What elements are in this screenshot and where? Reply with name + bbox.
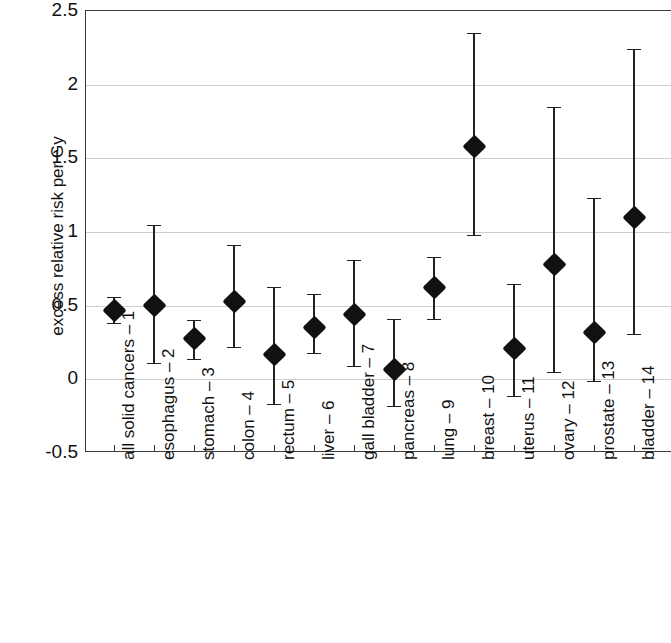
- diamond-marker-icon: [542, 252, 566, 276]
- error-bar-cap-lower: [427, 319, 441, 320]
- error-bar-cap-upper: [547, 107, 561, 108]
- y-tick-label: 0: [13, 367, 85, 389]
- diamond-marker-icon: [502, 336, 526, 360]
- diamond-marker-icon: [222, 289, 246, 313]
- x-tick-label-text: liver – 6: [319, 400, 339, 460]
- error-bar-cap-lower: [187, 359, 201, 360]
- y-tick-label: 2: [13, 73, 85, 95]
- error-bar-cap-upper: [267, 287, 281, 288]
- error-bar-cap-upper: [347, 260, 361, 261]
- error-bar-cap-upper: [227, 245, 241, 246]
- x-tick-label-text: gall bladder – 7: [359, 344, 379, 460]
- error-bar-cap-upper: [467, 33, 481, 34]
- x-axis-tick: [234, 445, 235, 452]
- x-axis-tick: [354, 445, 355, 452]
- error-bar-cap-upper: [307, 294, 321, 295]
- diamond-marker-icon: [622, 205, 646, 229]
- x-axis-tick: [554, 445, 555, 452]
- x-axis-tick: [314, 445, 315, 452]
- gridline: [86, 85, 671, 86]
- diamond-marker-icon: [462, 135, 486, 159]
- error-bar-cap-upper: [107, 297, 121, 298]
- x-axis-tick: [194, 445, 195, 452]
- diamond-marker-icon: [302, 316, 326, 340]
- x-axis-tick: [274, 445, 275, 452]
- x-tick-label-text: prostate – 13: [599, 361, 619, 460]
- error-bar-line: [553, 107, 555, 372]
- x-tick-label-text: bladder – 14: [639, 365, 659, 460]
- x-tick-label-text: breast – 10: [479, 375, 499, 460]
- error-bar-cap-lower: [227, 347, 241, 348]
- x-tick-label-text: all solid cancers – 1: [119, 311, 139, 460]
- gridline: [86, 158, 671, 159]
- gridline: [86, 306, 671, 307]
- error-bar-cap-lower: [307, 353, 321, 354]
- y-tick-label: 0.5: [13, 294, 85, 316]
- error-bar-cap-lower: [547, 372, 561, 373]
- error-bar-cap-upper: [427, 257, 441, 258]
- x-axis-tick: [114, 445, 115, 452]
- x-tick-label-text: pancreas – 8: [399, 362, 419, 460]
- x-axis-tick: [434, 445, 435, 452]
- x-tick-label-text: stomach – 3: [199, 367, 219, 460]
- y-tick-label: 1.5: [13, 146, 85, 168]
- x-tick-label-text: uterus – 11: [519, 376, 539, 460]
- error-bar-line: [593, 198, 595, 381]
- error-bar-cap-upper: [587, 198, 601, 199]
- y-tick-label: -0.5: [13, 441, 85, 463]
- x-axis-tick: [394, 445, 395, 452]
- x-axis-tick: [514, 445, 515, 452]
- x-tick-label-text: esophagus – 2: [159, 348, 179, 460]
- x-axis-tick: [594, 445, 595, 452]
- diamond-marker-icon: [422, 276, 446, 300]
- diamond-marker-icon: [262, 342, 286, 366]
- error-bar-cap-lower: [627, 334, 641, 335]
- x-tick-label-text: ovary – 12: [559, 381, 579, 460]
- y-tick-label: 2.5: [13, 0, 85, 21]
- x-axis-tick: [634, 445, 635, 452]
- error-bar-cap-upper: [187, 320, 201, 321]
- x-tick-label-text: rectum – 5: [279, 380, 299, 460]
- excess-relative-risk-chart: excess relative risk per Gy -0.500.511.5…: [0, 0, 671, 643]
- error-bar-cap-upper: [627, 49, 641, 50]
- diamond-marker-icon: [582, 320, 606, 344]
- x-tick-label-text: colon – 4: [239, 391, 259, 460]
- x-tick-label-text: lung – 9: [439, 400, 459, 461]
- y-tick-label: 1: [13, 220, 85, 242]
- diamond-marker-icon: [142, 294, 166, 318]
- gridline: [86, 232, 671, 233]
- diamond-marker-icon: [182, 326, 206, 350]
- error-bar-cap-lower: [467, 235, 481, 236]
- x-axis-tick-labels: all solid cancers – 1esophagus – 2stomac…: [85, 452, 671, 643]
- error-bar-cap-upper: [507, 284, 521, 285]
- error-bar-cap-upper: [147, 225, 161, 226]
- error-bar-cap-upper: [387, 319, 401, 320]
- x-axis-tick: [474, 445, 475, 452]
- y-axis-tick-labels: -0.500.511.522.5: [0, 0, 85, 643]
- error-bar-line: [633, 49, 635, 333]
- x-axis-tick: [154, 445, 155, 452]
